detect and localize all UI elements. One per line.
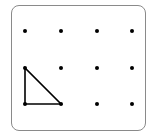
peg-dot (23, 29, 27, 33)
peg-dot (130, 29, 134, 33)
peg-dot (95, 66, 99, 70)
triangle-shape (25, 68, 61, 104)
geoboard-diagram (0, 0, 153, 137)
peg-dot (130, 102, 134, 106)
peg-dot (23, 102, 27, 106)
peg-dot (23, 66, 27, 70)
peg-dot (59, 29, 63, 33)
peg-dot (130, 66, 134, 70)
peg-dot (95, 29, 99, 33)
peg-dot (59, 66, 63, 70)
peg-dot (59, 102, 63, 106)
peg-dot (95, 102, 99, 106)
